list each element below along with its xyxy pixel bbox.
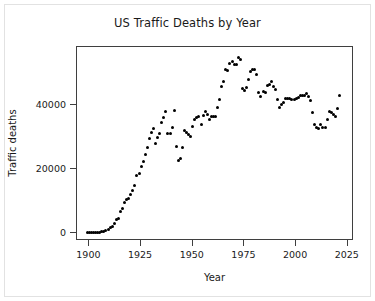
data-point — [274, 88, 277, 91]
y-tick-label: 20000 — [36, 162, 66, 173]
data-point — [235, 63, 238, 66]
data-point — [326, 118, 329, 121]
data-point — [191, 125, 194, 128]
data-point — [253, 68, 256, 71]
data-point — [162, 116, 165, 119]
data-point — [148, 137, 151, 140]
data-point — [334, 115, 337, 118]
x-axis-label: Year — [76, 272, 353, 283]
x-tick-label: 1975 — [231, 249, 255, 260]
x-tick-mark — [88, 240, 89, 246]
data-point — [113, 222, 116, 225]
data-point — [160, 121, 163, 124]
data-point — [146, 146, 149, 149]
data-point — [278, 106, 281, 109]
x-tick-label: 1900 — [76, 249, 100, 260]
data-point — [121, 207, 124, 210]
data-point — [268, 83, 271, 86]
data-point — [214, 115, 217, 118]
x-tick-mark — [243, 240, 244, 246]
data-point — [243, 89, 246, 92]
data-point — [282, 101, 285, 104]
data-point — [119, 210, 122, 213]
x-tick-mark — [192, 240, 193, 246]
data-point — [245, 86, 248, 89]
chart-figure: US Traffic Deaths by Year Traffic deaths… — [0, 0, 375, 301]
scatter-series — [77, 47, 352, 239]
x-tick-label: 1950 — [180, 249, 204, 260]
data-point — [239, 58, 242, 61]
data-point — [257, 91, 260, 94]
data-point — [158, 132, 161, 135]
data-point — [324, 126, 327, 129]
data-point — [189, 135, 192, 138]
data-point — [140, 165, 143, 168]
page-title: US Traffic Deaths by Year — [0, 16, 375, 30]
data-point — [131, 189, 134, 192]
y-axis-label: Traffic deaths — [7, 109, 18, 176]
data-point — [169, 132, 172, 135]
data-point — [117, 217, 120, 220]
data-point — [338, 94, 341, 97]
x-tick-mark — [295, 240, 296, 246]
data-point — [216, 106, 219, 109]
data-point — [127, 197, 130, 200]
plot-area — [76, 46, 353, 240]
data-point — [247, 78, 250, 81]
data-point — [264, 91, 267, 94]
data-point — [309, 99, 312, 102]
data-point — [144, 153, 147, 156]
data-point — [175, 145, 178, 148]
data-point — [317, 127, 320, 130]
y-tick-mark — [70, 168, 76, 169]
data-point — [220, 85, 223, 88]
data-point — [208, 118, 211, 121]
data-point — [142, 160, 145, 163]
data-point — [154, 142, 157, 145]
data-point — [150, 131, 153, 134]
data-point — [181, 146, 184, 149]
data-point — [311, 111, 314, 114]
data-point — [259, 95, 262, 98]
y-tick-label: 40000 — [36, 98, 66, 109]
data-point — [197, 115, 200, 118]
x-tick-mark — [140, 240, 141, 246]
data-point — [307, 95, 310, 98]
data-point — [255, 73, 258, 76]
y-tick-label: 0 — [60, 226, 66, 237]
y-tick-mark — [70, 104, 76, 105]
y-tick-mark — [70, 232, 76, 233]
x-tick-label: 1925 — [128, 249, 152, 260]
x-tick-mark — [347, 240, 348, 246]
data-point — [123, 201, 126, 204]
data-point — [152, 127, 155, 130]
data-point — [222, 80, 225, 83]
data-point — [336, 107, 339, 110]
data-point — [202, 114, 205, 117]
data-point — [276, 98, 279, 101]
data-point — [179, 157, 182, 160]
data-point — [218, 98, 221, 101]
x-tick-label: 2025 — [335, 249, 359, 260]
data-point — [156, 136, 159, 139]
data-point — [111, 225, 114, 228]
data-point — [129, 193, 132, 196]
data-point — [228, 62, 231, 65]
data-point — [171, 126, 174, 129]
data-point — [206, 113, 209, 116]
data-point — [200, 123, 203, 126]
data-point — [133, 184, 136, 187]
data-point — [173, 109, 176, 112]
x-tick-label: 2000 — [283, 249, 307, 260]
data-point — [164, 110, 167, 113]
data-point — [226, 69, 229, 72]
data-point — [297, 96, 300, 99]
